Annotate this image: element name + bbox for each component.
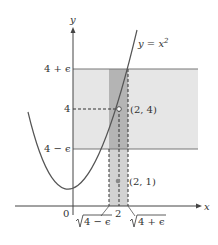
right-root-leader xyxy=(128,206,135,216)
limit-diagram: y x 0 y = x2 4 + ϵ 4 4 − ϵ (2, 4) (2, 1)… xyxy=(0,0,218,245)
y-axis-arrow-icon xyxy=(71,27,76,33)
x-tick-left-root: 4 − ϵ xyxy=(84,216,111,227)
x-axis-label: x xyxy=(204,201,210,212)
y-axis-label: y xyxy=(69,14,76,25)
filled-point xyxy=(116,179,121,184)
delta-band-lower xyxy=(109,149,128,206)
y-tick-lower: 4 − ϵ xyxy=(44,143,71,154)
x-tick-center: 2 xyxy=(115,208,121,219)
y-tick-middle: 4 xyxy=(64,103,70,114)
curve-label: y = x2 xyxy=(137,37,169,49)
x-axis-arrow-icon xyxy=(196,204,202,209)
y-tick-upper: 4 + ϵ xyxy=(44,63,71,74)
open-point xyxy=(117,107,122,112)
origin-label: 0 xyxy=(63,208,69,219)
filled-point-label: (2, 1) xyxy=(129,176,156,187)
open-point-label: (2, 4) xyxy=(130,104,157,115)
x-tick-right-root: 4 + ϵ xyxy=(138,216,165,227)
left-root-leader xyxy=(101,206,109,216)
